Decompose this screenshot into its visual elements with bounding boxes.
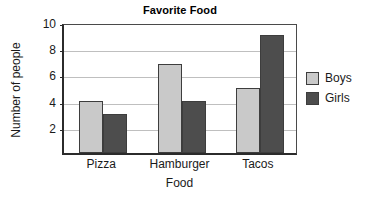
bar-chart: Favorite Food Number of people 246810 Pi… (0, 0, 373, 199)
y-axis-tick-label: 6 (34, 69, 56, 83)
bar-hamburger-boys[interactable] (158, 64, 182, 153)
legend-swatch-icon (306, 92, 319, 105)
legend-item-label: Girls (325, 91, 350, 105)
y-axis-label-container: Number of people (8, 24, 24, 155)
bar-tacos-boys[interactable] (236, 88, 260, 154)
bar-pizza-boys[interactable] (79, 101, 103, 153)
bars-layer (64, 25, 296, 153)
chart-legend: BoysGirls (306, 68, 370, 108)
x-axis-tick-label: Pizza (86, 157, 115, 171)
legend-item-label: Boys (325, 71, 352, 85)
y-axis-tick-labels: 246810 (28, 24, 62, 155)
bar-hamburger-girls[interactable] (182, 101, 206, 153)
x-axis-tick-label: Hamburger (149, 157, 209, 171)
x-axis-label: Food (62, 176, 297, 190)
legend-swatch-icon (306, 72, 319, 85)
x-axis-tick-label: Tacos (242, 157, 273, 171)
x-axis-tick-labels: PizzaHamburgerTacos (62, 157, 297, 173)
legend-item-boys[interactable]: Boys (306, 68, 370, 88)
y-axis-tick-label: 2 (34, 122, 56, 136)
bar-tacos-girls[interactable] (260, 35, 284, 153)
y-axis-tick-label: 8 (34, 43, 56, 57)
chart-title: Favorite Food (62, 4, 298, 16)
y-axis-tick-label: 10 (34, 17, 56, 31)
bar-pizza-girls[interactable] (103, 114, 127, 153)
plot-area (62, 24, 297, 155)
y-axis-tick-label: 4 (34, 96, 56, 110)
legend-item-girls[interactable]: Girls (306, 88, 370, 108)
y-axis-label: Number of people (9, 42, 23, 137)
